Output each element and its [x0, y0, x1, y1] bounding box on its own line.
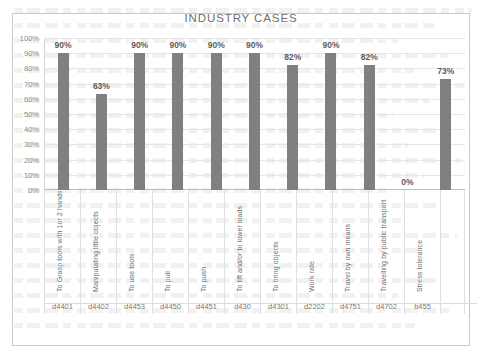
bar-value-label: 90% — [131, 40, 148, 50]
bar[interactable] — [96, 94, 107, 190]
bar-value-label: 90% — [246, 40, 263, 50]
y-axis-tick-label: 90% — [24, 49, 39, 58]
bar[interactable] — [172, 53, 183, 190]
bar-group[interactable]: 90% — [197, 38, 235, 190]
category-label: Manipulating little objects — [92, 211, 99, 292]
category-cell: To use toolsd4453 — [117, 190, 153, 314]
category-cell: To pulld4450 — [153, 190, 189, 314]
category-label: To bring objects — [272, 241, 279, 292]
bar-value-label: 90% — [322, 40, 339, 50]
bar-series: 90%63%90%90%90%90%82%90%82%0%73% — [44, 38, 465, 190]
bar-group[interactable]: 63% — [82, 38, 120, 190]
category-code: b455 — [405, 302, 440, 311]
category-code: d4453 — [117, 302, 152, 311]
bar[interactable] — [287, 65, 298, 190]
y-axis-tick-label: 0% — [28, 186, 39, 195]
y-axis-tick-label: 70% — [24, 79, 39, 88]
bar-group[interactable]: 0% — [388, 38, 426, 190]
category-label: To Grasp tools with 1or 2 hands — [56, 190, 63, 292]
category-cell: Travel by own meansd4751 — [333, 190, 369, 314]
category-cell: To Grasp tools with 1or 2 handsd4401 — [44, 190, 81, 314]
bar-value-label: 82% — [284, 52, 301, 62]
bar-value-label: 73% — [437, 66, 454, 76]
category-cell: Stress toleranceb455 — [405, 190, 441, 314]
bar-group[interactable]: 73% — [427, 38, 465, 190]
y-axis-tick-label: 30% — [24, 140, 39, 149]
bar-group[interactable]: 90% — [121, 38, 159, 190]
bar[interactable] — [134, 53, 145, 190]
category-label: Stress tolerance — [416, 240, 423, 292]
bar[interactable] — [58, 53, 69, 190]
y-axis-tick-label: 10% — [24, 170, 39, 179]
chart-title: INDUSTRY CASES — [0, 12, 482, 24]
bar[interactable] — [325, 53, 336, 190]
bar[interactable] — [249, 53, 260, 190]
bar-group[interactable]: 90% — [159, 38, 197, 190]
category-label: To lift and/or to lower loads — [236, 206, 243, 292]
category-code: d4450 — [153, 302, 188, 311]
bar-group[interactable]: 90% — [44, 38, 82, 190]
y-axis-tick-label: 20% — [24, 155, 39, 164]
bar-group[interactable]: 90% — [235, 38, 273, 190]
category-code: d430 — [225, 302, 260, 311]
y-axis-tick-label: 40% — [24, 125, 39, 134]
bar[interactable] — [440, 79, 451, 190]
category-label: To use tools — [128, 253, 135, 292]
category-code: d4751 — [333, 302, 368, 311]
category-cell: To lift and/or to lower loadsd430 — [225, 190, 261, 314]
bar-value-label: 63% — [93, 81, 110, 91]
bar[interactable] — [364, 65, 375, 190]
category-axis: To Grasp tools with 1or 2 handsd4401Mani… — [44, 190, 465, 314]
bar[interactable] — [211, 53, 222, 190]
y-axis-tick-label: 100% — [20, 34, 39, 43]
bar-group[interactable]: 82% — [350, 38, 388, 190]
category-cell: To pushd4451 — [189, 190, 225, 314]
bar-value-label: 90% — [55, 40, 72, 50]
y-axis-tick-label: 80% — [24, 64, 39, 73]
bar-group[interactable]: 90% — [312, 38, 350, 190]
category-label: Work rate — [308, 261, 315, 292]
category-code: d2202 — [297, 302, 332, 311]
bar-value-label: 90% — [208, 40, 225, 50]
bar-value-label: 82% — [361, 52, 378, 62]
category-code: d4401 — [45, 302, 80, 311]
category-cell-empty — [441, 190, 465, 314]
category-label: Travel by own means — [344, 224, 351, 292]
category-code: d4402 — [81, 302, 116, 311]
category-cell: Work rated2202 — [297, 190, 333, 314]
category-cell: Travelling by public transportd4702 — [369, 190, 405, 314]
category-code: d4451 — [189, 302, 224, 311]
category-code: d4702 — [369, 302, 404, 311]
y-axis-tick-label: 50% — [24, 110, 39, 119]
category-code: d4301 — [261, 302, 296, 311]
category-label: Travelling by public transport — [380, 200, 387, 292]
plot-area: 100%90%80%70%60%50%40%30%20%10%0% 90%63%… — [44, 38, 465, 190]
y-axis-tick-label: 60% — [24, 94, 39, 103]
bar-group[interactable]: 82% — [274, 38, 312, 190]
category-cell: To bring objectsd4301 — [261, 190, 297, 314]
category-label: To push — [200, 267, 207, 292]
bar-value-label: 90% — [169, 40, 186, 50]
category-label: To pull — [164, 271, 171, 292]
category-cell: Manipulating little objectsd4402 — [81, 190, 117, 314]
bar-value-label: 0% — [401, 177, 413, 187]
